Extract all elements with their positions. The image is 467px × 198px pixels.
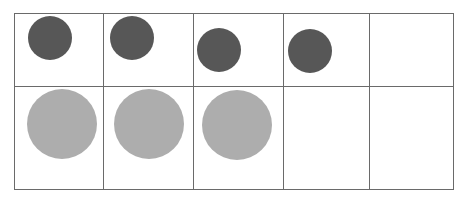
dark-circle-icon [110, 16, 154, 60]
row-divider [14, 86, 454, 87]
dark-circle-icon [197, 28, 241, 72]
column-divider [103, 13, 104, 190]
column-divider [369, 13, 370, 190]
column-divider [193, 13, 194, 190]
dark-circle-icon [28, 16, 72, 60]
light-circle-icon [202, 90, 272, 160]
dark-circle-icon [288, 29, 332, 73]
column-divider [283, 13, 284, 190]
light-circle-icon [114, 89, 184, 159]
light-circle-icon [27, 89, 97, 159]
